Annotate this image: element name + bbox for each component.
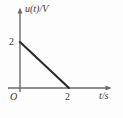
data-series-line — [20, 42, 69, 88]
y-axis-label: u(t)/V — [25, 4, 48, 14]
x-axis-tick-label-2: 2 — [65, 92, 70, 102]
voltage-waveform-figure: u(t)/V t/s 2 2 O — [0, 0, 123, 118]
origin-label: O — [10, 92, 17, 102]
y-axis-arrow-icon — [18, 8, 23, 14]
x-axis-label: t/s — [99, 91, 108, 101]
y-axis-tick-label-2: 2 — [9, 37, 14, 47]
